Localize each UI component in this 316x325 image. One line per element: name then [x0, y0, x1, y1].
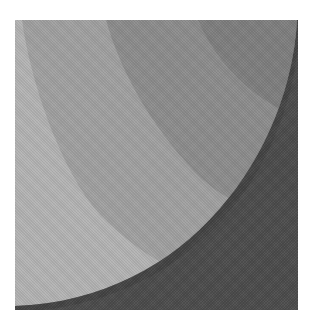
- abstract-arcs-artwork: [0, 0, 316, 325]
